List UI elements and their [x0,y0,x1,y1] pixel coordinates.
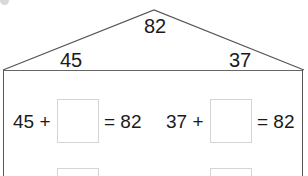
equation-1-addend: 45 + [13,112,51,132]
roof-left-number: 45 [60,50,82,70]
roof-right-number: 37 [229,50,251,70]
equation-1-answer-box[interactable] [57,99,99,143]
row-2-answer-box-right[interactable] [210,168,252,176]
equation-2-addend: 37 + [166,112,204,132]
equation-2-result: = 82 [257,112,295,132]
equation-1-result: = 82 [104,112,142,132]
equation-2-answer-box[interactable] [210,99,252,143]
roof-top-number: 82 [144,16,166,36]
row-2-answer-box-left[interactable] [57,168,99,176]
